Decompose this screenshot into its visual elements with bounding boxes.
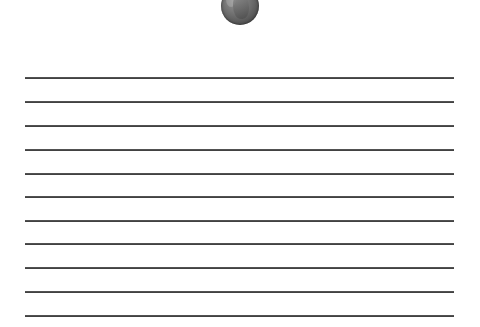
ruled-line bbox=[25, 173, 454, 175]
ruled-line bbox=[25, 243, 454, 245]
ruled-line bbox=[25, 77, 454, 79]
ruled-line bbox=[25, 315, 454, 317]
ruled-line bbox=[25, 220, 454, 222]
ruled-lines bbox=[0, 0, 480, 327]
ruled-line bbox=[25, 196, 454, 198]
ruled-line bbox=[25, 101, 454, 103]
ruled-line bbox=[25, 149, 454, 151]
ruled-line bbox=[25, 125, 454, 127]
ruled-line bbox=[25, 291, 454, 293]
ruled-line bbox=[25, 267, 454, 269]
